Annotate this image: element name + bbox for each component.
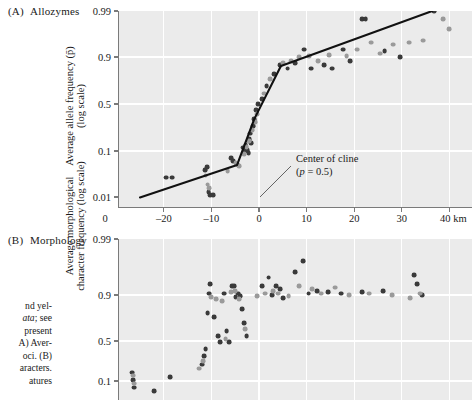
caption-line: oci. (B) bbox=[0, 350, 52, 362]
data-point bbox=[219, 299, 224, 304]
data-point bbox=[286, 294, 291, 299]
gridline-vertical bbox=[401, 239, 402, 400]
data-point bbox=[214, 297, 219, 302]
data-point bbox=[266, 275, 271, 280]
panel-a-letter: (A) bbox=[8, 5, 30, 17]
gridline-horizontal bbox=[119, 380, 472, 381]
x-axis-tick-label: –20 bbox=[156, 213, 172, 224]
data-point bbox=[318, 291, 323, 296]
x-axis-tick-label: 10 bbox=[301, 213, 312, 224]
x-axis-origin-label: 0 bbox=[102, 213, 107, 224]
y-axis-tick-label: 0.99 bbox=[75, 6, 111, 17]
x-axis-tick-label: –10 bbox=[204, 213, 220, 224]
x-axis-tick-label: 40 km bbox=[440, 213, 467, 224]
caption-line: present bbox=[0, 325, 52, 337]
x-axis-tick bbox=[449, 208, 450, 212]
panel-a-label: Allozymes bbox=[30, 5, 79, 17]
panel-b-letter: (B) bbox=[8, 234, 30, 246]
data-point bbox=[212, 314, 217, 319]
data-point bbox=[205, 311, 210, 316]
data-point bbox=[224, 328, 229, 333]
annotation-value: = 0.5) bbox=[305, 166, 333, 177]
data-point bbox=[412, 273, 417, 278]
data-point bbox=[367, 291, 372, 296]
data-point bbox=[241, 321, 246, 326]
y-axis-tick bbox=[114, 238, 118, 239]
gridline-horizontal bbox=[119, 340, 472, 341]
data-point bbox=[380, 288, 385, 293]
data-point bbox=[208, 282, 213, 287]
x-axis-tick bbox=[211, 208, 212, 212]
data-point bbox=[233, 288, 238, 293]
gridline-vertical bbox=[449, 239, 450, 400]
data-point bbox=[347, 293, 352, 298]
data-point bbox=[310, 287, 315, 292]
data-point bbox=[197, 366, 202, 371]
y-axis-tick bbox=[114, 340, 118, 341]
gridline-vertical bbox=[306, 239, 307, 400]
panel-a-title: (A)Allozymes bbox=[8, 5, 79, 17]
figure-caption: nd yel-ata; seepresentA) Aver-oci. (B)ar… bbox=[0, 300, 52, 387]
panel-b-plot-area bbox=[119, 239, 472, 400]
data-point bbox=[152, 389, 157, 394]
data-point bbox=[203, 347, 208, 352]
y-axis-tick-label: 0.5 bbox=[75, 336, 111, 347]
gridline-vertical bbox=[211, 239, 212, 400]
y-axis-line bbox=[118, 11, 119, 207]
data-point bbox=[221, 291, 226, 296]
y-axis-tick bbox=[114, 103, 118, 104]
gridline-vertical bbox=[163, 239, 164, 400]
data-point bbox=[300, 258, 305, 263]
data-point bbox=[326, 290, 331, 295]
gridline-vertical bbox=[354, 239, 355, 400]
y-axis-tick bbox=[114, 56, 118, 57]
panel-b-y-title-line1: Average morphological bbox=[64, 177, 75, 276]
gridline-vertical bbox=[258, 239, 259, 400]
data-point bbox=[276, 291, 281, 296]
caption-line: ata; see bbox=[0, 312, 52, 324]
data-point bbox=[223, 337, 228, 342]
data-point bbox=[338, 291, 343, 296]
panel-a-y-title-line1: Average allele frequency (p̄) bbox=[64, 46, 75, 166]
cline-center-annotation: Center of cline (p = 0.5) bbox=[296, 152, 358, 179]
figure-root: (A)Allozymes 0.990.90.50.10.01–20–100102… bbox=[0, 0, 472, 400]
data-point bbox=[408, 296, 413, 301]
data-point bbox=[333, 285, 338, 290]
data-point bbox=[297, 283, 302, 288]
annotation-line-1: Center of cline bbox=[296, 152, 358, 165]
data-point bbox=[168, 375, 173, 380]
data-point bbox=[242, 327, 247, 332]
data-point bbox=[417, 291, 422, 296]
data-point bbox=[293, 270, 298, 275]
data-point bbox=[200, 359, 205, 364]
y-axis-tick bbox=[114, 196, 118, 197]
data-point bbox=[237, 297, 242, 302]
data-point bbox=[280, 296, 285, 301]
data-point bbox=[359, 290, 364, 295]
data-point bbox=[270, 293, 275, 298]
data-point bbox=[218, 340, 223, 345]
x-axis-tick bbox=[401, 208, 402, 212]
x-axis-tick bbox=[163, 208, 164, 212]
x-axis-tick bbox=[354, 208, 355, 212]
data-point bbox=[130, 373, 135, 378]
data-point bbox=[262, 291, 267, 296]
panel-b-y-axis-title: Average morphological character frequenc… bbox=[64, 151, 86, 301]
data-point bbox=[239, 307, 244, 312]
y-axis-line bbox=[118, 239, 119, 400]
annotation-line-2: (p = 0.5) bbox=[296, 165, 358, 178]
x-axis-tick bbox=[306, 208, 307, 212]
data-point bbox=[259, 283, 264, 288]
data-point bbox=[255, 294, 260, 299]
x-axis-tick bbox=[258, 208, 259, 212]
y-axis-tick bbox=[114, 380, 118, 381]
data-point bbox=[415, 282, 420, 287]
caption-line: aracters. bbox=[0, 362, 52, 374]
caption-line: nd yel- bbox=[0, 300, 52, 312]
caption-line: atures bbox=[0, 375, 52, 387]
data-point bbox=[390, 293, 395, 298]
x-axis-tick-label: 0 bbox=[256, 213, 261, 224]
data-point bbox=[131, 381, 136, 386]
data-point bbox=[306, 291, 311, 296]
y-axis-tick-label: 0.1 bbox=[75, 376, 111, 387]
